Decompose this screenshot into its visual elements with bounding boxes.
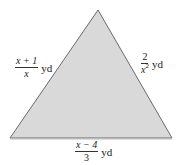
right-denominator-wrap: x2 [141, 64, 149, 75]
left-numerator: x + 1 [15, 56, 38, 68]
right-side-fraction: 2 x2 [141, 52, 149, 75]
bottom-side-label: x − 4 3 yd [75, 140, 112, 163]
left-side-fraction: x + 1 x [15, 56, 38, 79]
right-exponent: 2 [145, 62, 149, 70]
bottom-numerator: x − 4 [75, 140, 98, 152]
bottom-denominator: 3 [84, 152, 89, 163]
left-side-label: x + 1 x yd [15, 56, 52, 79]
left-denominator: x [24, 68, 28, 79]
bottom-unit: yd [101, 146, 112, 158]
bottom-side-fraction: x − 4 3 [75, 140, 98, 163]
left-unit: yd [41, 62, 52, 74]
right-side-label: 2 x2 yd [141, 52, 163, 75]
right-unit: yd [152, 58, 163, 70]
